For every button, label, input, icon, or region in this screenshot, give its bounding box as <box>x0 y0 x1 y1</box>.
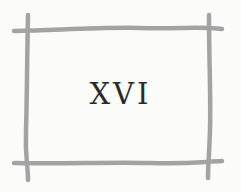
frame-top-line <box>14 28 222 31</box>
roman-numeral-label: XVI <box>0 76 241 112</box>
frame-bottom-line <box>14 161 222 163</box>
